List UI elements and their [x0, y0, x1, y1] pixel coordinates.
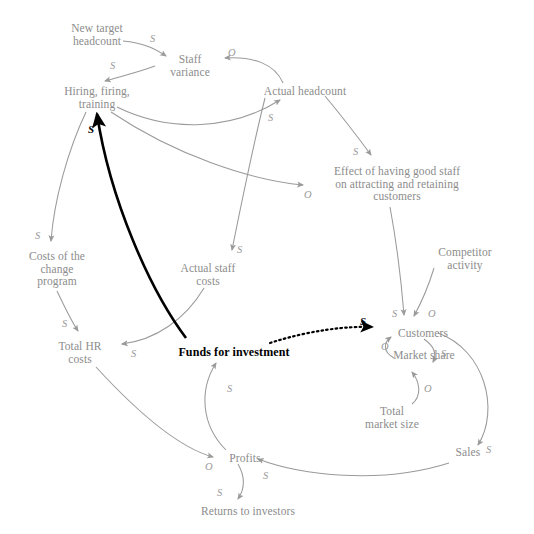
- link-sales-to-profits-polarity: S: [263, 470, 268, 481]
- node-customers[interactable]: Customers: [385, 327, 461, 340]
- link-profits-to-funds-polarity: S: [227, 383, 232, 394]
- node-new-target-headcount[interactable]: New target headcount: [52, 22, 142, 47]
- link-funds-to-hiring-polarity: S: [88, 124, 94, 135]
- node-actual-headcount[interactable]: Actual headcount: [247, 85, 363, 98]
- link-profits-to-returns-polarity: S: [217, 487, 222, 498]
- link-total-market-size-to-market-share-polarity: O: [424, 383, 432, 394]
- link-actual-headcount-to-actual-staff-costs-polarity: S: [237, 244, 242, 255]
- node-returns-to-investors[interactable]: Returns to investors: [186, 505, 310, 518]
- link-hiring-to-effect-of-good-staff: [111, 112, 303, 185]
- node-market-share[interactable]: Market share: [379, 349, 469, 362]
- link-new-target-to-staff-variance-polarity: S: [150, 33, 155, 44]
- link-actual-headcount-to-effect: [325, 96, 371, 155]
- link-funds-to-customers-polarity: S: [360, 316, 366, 327]
- node-effect-of-good-staff[interactable]: Effect of having good staff on attractin…: [307, 165, 487, 203]
- link-customers-to-sales-polarity: S: [486, 444, 491, 455]
- link-actual-headcount-to-effect-polarity: S: [353, 146, 358, 157]
- link-hiring-to-costs-of-change: [51, 112, 86, 241]
- link-actual-headcount-to-staff-variance-polarity: O: [228, 47, 236, 58]
- link-market-share-to-customers-polarity: O: [381, 341, 389, 352]
- link-hiring-to-costs-of-change-polarity: S: [35, 230, 40, 241]
- node-actual-staff-costs[interactable]: Actual staff costs: [168, 262, 248, 287]
- causal-loop-diagram: New target headcountStaff varianceHiring…: [0, 0, 534, 534]
- link-costs-of-change-to-total-hr-polarity: S: [62, 318, 67, 329]
- node-sales[interactable]: Sales: [447, 446, 489, 459]
- link-hiring-to-effect-of-good-staff-polarity: O: [304, 189, 312, 200]
- link-funds-to-customers: [270, 327, 372, 343]
- link-actual-staff-costs-to-total-hr-polarity: S: [131, 348, 136, 359]
- node-costs-of-change-program[interactable]: Costs of the change program: [17, 250, 97, 288]
- link-actual-headcount-to-staff-variance: [225, 58, 283, 83]
- link-competitor-to-customers-polarity: O: [428, 308, 436, 319]
- link-effect-to-customers-polarity: S: [392, 308, 397, 319]
- link-actual-headcount-to-actual-staff-costs: [232, 98, 265, 250]
- node-total-market-size[interactable]: Total market size: [354, 405, 430, 430]
- link-staff-variance-to-hiring-polarity: S: [110, 60, 115, 71]
- link-total-hr-to-profits: [96, 367, 213, 457]
- node-total-hr-costs[interactable]: Total HR costs: [47, 340, 113, 365]
- link-profits-to-returns: [238, 464, 243, 499]
- node-funds-for-investment[interactable]: Funds for investment: [168, 346, 300, 359]
- link-customers-to-market-share-polarity: S: [441, 348, 446, 359]
- link-sales-to-profits: [258, 459, 449, 476]
- node-profits[interactable]: Profits: [221, 452, 269, 465]
- link-profits-to-funds: [205, 363, 226, 450]
- link-effect-to-customers: [390, 207, 404, 315]
- link-total-market-size-to-market-share: [412, 372, 419, 404]
- link-funds-to-hiring: [97, 114, 186, 338]
- link-costs-of-change-to-total-hr: [57, 291, 78, 331]
- node-competitor-activity[interactable]: Competitor activity: [424, 246, 506, 271]
- node-staff-variance[interactable]: Staff variance: [154, 53, 226, 78]
- link-total-hr-to-profits-polarity: O: [205, 461, 213, 472]
- node-hiring-firing-training[interactable]: Hiring, firing, training: [47, 85, 147, 110]
- link-hiring-to-actual-headcount-polarity: S: [268, 112, 273, 123]
- link-actual-staff-costs-to-total-hr: [122, 288, 204, 344]
